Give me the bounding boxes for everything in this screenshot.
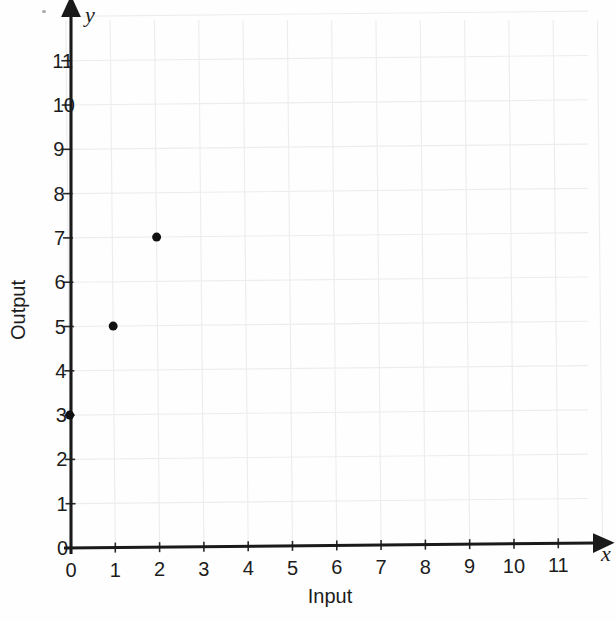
x-tick-label: 6	[331, 557, 342, 577]
grid-line-horizontal	[70, 366, 588, 371]
x-axis-line	[64, 543, 596, 548]
x-tick-label: 0	[65, 560, 76, 580]
grid-line-vertical	[376, 20, 381, 544]
grid-line-horizontal	[67, 55, 588, 60]
y-axis-title: Output	[7, 280, 30, 340]
x-tick-label: 10	[503, 556, 525, 576]
x-axis-title: Input	[308, 585, 352, 608]
grid-line-horizontal	[70, 321, 588, 326]
x-tick-label: 9	[464, 556, 475, 576]
grid-line-vertical	[243, 20, 248, 545]
grid-line-vertical	[509, 20, 514, 543]
grid-line-horizontal	[69, 233, 588, 238]
grid-line-vertical	[154, 20, 159, 546]
x-tick-label: 3	[198, 559, 209, 579]
y-axis-letter: y	[85, 2, 95, 28]
x-tick-label: 11	[548, 555, 569, 575]
grid-line-vertical	[465, 20, 470, 543]
axis-lines	[64, 14, 596, 554]
grid-line-vertical	[597, 20, 602, 542]
scatter-plot-figure: (0, 3)(1, 5)(2, 7) 01234567891011 012345…	[0, 0, 616, 622]
x-tick-label: 1	[110, 560, 121, 580]
axis-ticks	[61, 61, 558, 553]
x-tick-label: 5	[287, 558, 298, 578]
grid-line-vertical	[287, 20, 292, 545]
grid-line-vertical	[420, 20, 425, 544]
x-tick-label: 4	[243, 558, 254, 578]
grid-line-horizontal	[71, 454, 588, 459]
grid-line-horizontal	[67, 11, 588, 16]
data-point: (2, 7)	[152, 233, 161, 242]
plot-canvas: (0, 3)(1, 5)(2, 7)	[0, 0, 616, 622]
grid-lines	[66, 11, 603, 548]
x-tick-label: 8	[420, 557, 431, 577]
grid-line-vertical	[553, 20, 558, 542]
grid-line-horizontal	[71, 498, 588, 503]
x-axis-letter: x	[601, 541, 611, 567]
data-point: (1, 5)	[109, 322, 118, 331]
grid-line-horizontal	[69, 277, 588, 282]
x-tick-label: 2	[154, 559, 165, 579]
x-tick-label: 7	[376, 557, 387, 577]
grid-line-horizontal	[71, 410, 588, 415]
grid-line-vertical	[110, 20, 115, 547]
grid-line-vertical	[332, 20, 337, 545]
grid-line-vertical	[199, 20, 204, 546]
